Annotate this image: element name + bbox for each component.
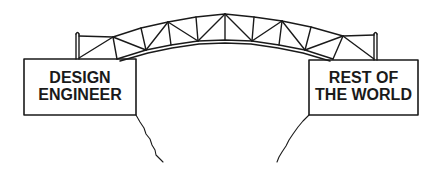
- right-sign-line1: REST OF: [309, 69, 418, 86]
- right-post: [374, 33, 377, 61]
- left-sign-line2: ENGINEER: [24, 86, 136, 103]
- bridge-diagram: DESIGN ENGINEER REST OF THE WORLD: [0, 0, 442, 173]
- left-sign-label: DESIGN ENGINEER: [24, 69, 136, 103]
- left-sign-line1: DESIGN: [24, 69, 136, 86]
- right-sign-line2: THE WORLD: [309, 86, 418, 103]
- truss-bridge: [79, 14, 374, 61]
- left-cliff: [136, 115, 163, 162]
- right-sign-label: REST OF THE WORLD: [309, 69, 418, 103]
- right-cliff: [277, 115, 309, 162]
